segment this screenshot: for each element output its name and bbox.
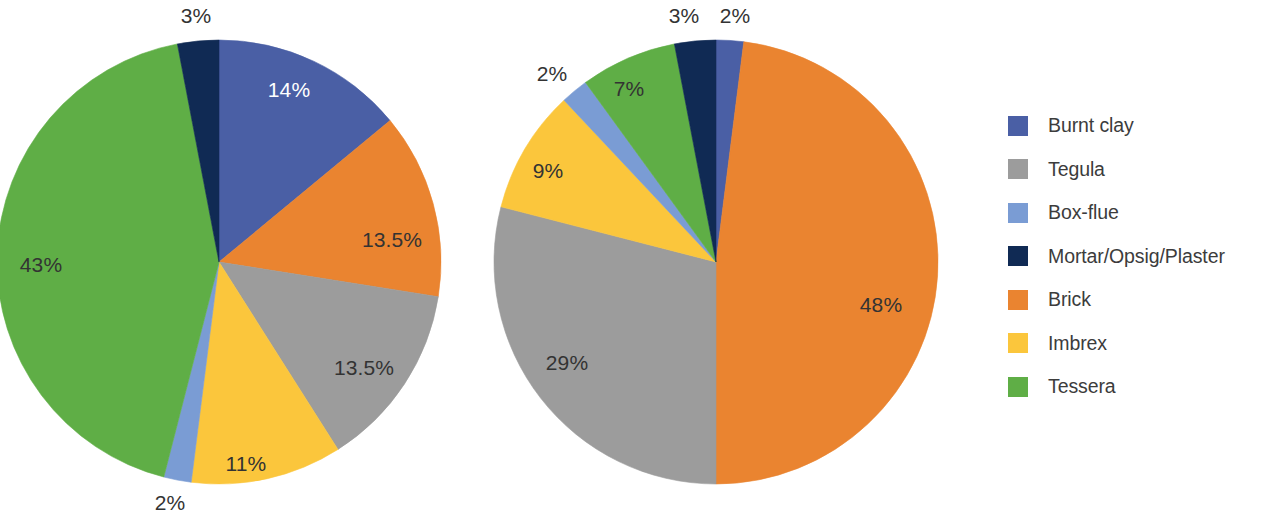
pie-svg [0, 36, 445, 488]
slice-percent-label: 43% [20, 254, 62, 275]
legend-swatch-icon [1008, 333, 1028, 353]
legend-swatch-icon [1008, 377, 1028, 397]
legend-swatch-icon [1008, 203, 1028, 223]
slice-percent-label: 2% [155, 492, 186, 511]
legend-item-label: Tessera [1048, 375, 1116, 398]
slice-percent-label: 2% [720, 5, 751, 26]
slice-percent-label: 3% [669, 5, 700, 26]
pie-svg [490, 36, 942, 488]
slice-percent-label: 29% [546, 352, 588, 373]
legend-swatch-icon [1008, 290, 1028, 310]
legend-item-label: Box-flue [1048, 201, 1119, 224]
pie-chart-figure: Burnt clayTegulaBox-flueMortar/Opsig/Pla… [0, 0, 1267, 511]
legend-item[interactable]: Imbrex [1008, 322, 1260, 366]
slice-percent-label: 11% [226, 453, 267, 474]
legend-swatch-icon [1008, 116, 1028, 136]
legend-swatch-icon [1008, 159, 1028, 179]
legend-item-label: Burnt clay [1048, 114, 1134, 137]
legend-item-label: Brick [1048, 288, 1091, 311]
legend-item[interactable]: Box-flue [1008, 191, 1260, 235]
slice-percent-label: 3% [181, 5, 212, 26]
slice-percent-label: 13.5% [334, 357, 394, 378]
pie-slice [716, 42, 938, 484]
legend-item[interactable]: Tegula [1008, 148, 1260, 192]
legend-item[interactable]: Tessera [1008, 365, 1260, 409]
slice-percent-label: 7% [614, 78, 645, 99]
legend-item[interactable]: Mortar/Opsig/Plaster [1008, 235, 1260, 279]
chart-legend: Burnt clayTegulaBox-flueMortar/Opsig/Pla… [1008, 104, 1260, 409]
legend-item-label: Mortar/Opsig/Plaster [1048, 245, 1225, 268]
slice-percent-label: 2% [537, 63, 568, 84]
legend-item-label: Imbrex [1048, 332, 1107, 355]
legend-item[interactable]: Burnt clay [1008, 104, 1260, 148]
slice-percent-label: 13.5% [362, 229, 422, 250]
slice-percent-label: 14% [268, 79, 310, 100]
legend-item-label: Tegula [1048, 158, 1105, 181]
pie-chart-left [0, 36, 445, 488]
legend-item[interactable]: Brick [1008, 278, 1260, 322]
slice-percent-label: 9% [533, 160, 564, 181]
slice-percent-label: 48% [860, 294, 902, 315]
legend-swatch-icon [1008, 246, 1028, 266]
pie-chart-right [490, 36, 942, 488]
